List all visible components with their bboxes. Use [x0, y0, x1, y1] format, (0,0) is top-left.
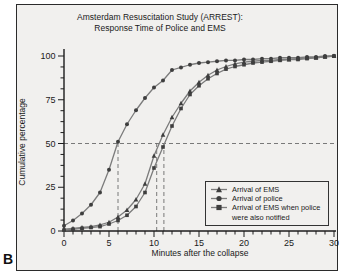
data-point-square [260, 60, 264, 64]
data-point-circle [215, 59, 219, 63]
data-point-square [62, 228, 66, 232]
data-point-square [332, 54, 336, 58]
y-tick-label: 100 [40, 51, 55, 61]
data-point-square [98, 225, 102, 229]
data-point-square [314, 56, 318, 60]
data-point-square [323, 55, 327, 59]
x-tick-label: 25 [284, 238, 294, 248]
figure-panel-label: B [3, 251, 13, 267]
legend-square-marker-icon [210, 203, 232, 212]
chart-legend: Arrival of EMSArrival of policeArrival o… [205, 181, 329, 226]
data-point-square [134, 205, 138, 209]
data-point-square [80, 227, 84, 231]
x-tick-label: 20 [239, 238, 249, 248]
y-tick-label: 25 [45, 182, 55, 192]
data-point-square [233, 65, 237, 69]
data-point-circle [170, 68, 174, 72]
data-point-square [287, 58, 291, 62]
data-point-square [161, 145, 165, 149]
legend-circle-marker-icon [210, 194, 232, 203]
legend-item: Arrival of police [210, 194, 326, 203]
legend-item: Arrival of EMS when police were also not… [210, 203, 326, 221]
data-point-circle [206, 60, 210, 64]
x-tick-label: 5 [106, 238, 111, 248]
data-point-square [188, 93, 192, 97]
data-point-square [71, 227, 75, 231]
data-point-square [224, 67, 228, 71]
data-point-circle [98, 191, 102, 195]
data-point-square [242, 63, 246, 67]
data-point-circle [224, 58, 228, 62]
data-point-circle [197, 61, 201, 65]
x-tick-label: 15 [194, 238, 204, 248]
chart-panel: Amsterdam Resuscitation Study (ARREST): … [16, 4, 338, 271]
data-point-circle [179, 65, 183, 69]
legend-item-label: Arrival of EMS [232, 185, 279, 194]
data-point-triangle [152, 153, 157, 157]
data-point-circle [143, 96, 147, 100]
data-point-square [89, 226, 93, 230]
data-point-square [251, 61, 255, 65]
data-point-circle [188, 63, 192, 67]
data-point-square [170, 124, 174, 128]
y-tick-label: 0 [50, 226, 55, 236]
data-point-square [125, 213, 129, 217]
data-point-circle [134, 108, 138, 112]
data-point-circle [80, 212, 84, 216]
data-point-circle [233, 58, 237, 62]
data-point-square [278, 59, 282, 63]
x-tick-label: 10 [149, 238, 159, 248]
y-tick-label: 50 [45, 139, 55, 149]
data-point-circle [161, 79, 165, 83]
data-point-square [143, 191, 147, 195]
data-point-square [269, 59, 273, 63]
data-point-triangle [143, 181, 148, 185]
data-point-circle [107, 168, 111, 172]
data-point-circle [89, 203, 93, 207]
data-point-square [197, 84, 201, 88]
data-point-square [215, 72, 219, 76]
legend-item-label: Arrival of police [232, 194, 283, 203]
data-point-circle [71, 219, 75, 223]
legend-item: Arrival of EMS [210, 185, 326, 194]
legend-triangle-marker-icon [210, 185, 232, 194]
data-point-square [179, 107, 183, 111]
y-tick-label: 75 [45, 95, 55, 105]
data-point-square [107, 222, 111, 226]
data-point-circle [116, 140, 120, 144]
data-point-circle [260, 57, 264, 61]
data-point-square [296, 58, 300, 62]
data-point-square [305, 57, 309, 61]
x-tick-label: 30 [329, 238, 339, 248]
data-point-square [206, 77, 210, 81]
data-point-square [152, 166, 156, 170]
x-axis-label: Minutes after the collapse [64, 248, 336, 258]
data-point-circle [62, 224, 66, 228]
data-point-circle [152, 86, 156, 90]
x-tick-label: 0 [61, 238, 66, 248]
data-point-circle [242, 58, 246, 62]
data-point-square [116, 219, 120, 223]
data-point-circle [125, 122, 129, 126]
legend-item-label: Arrival of EMS when police were also not… [232, 203, 326, 221]
data-point-circle [251, 58, 255, 62]
chart-svg: 0255075100051015202530 [17, 5, 339, 270]
